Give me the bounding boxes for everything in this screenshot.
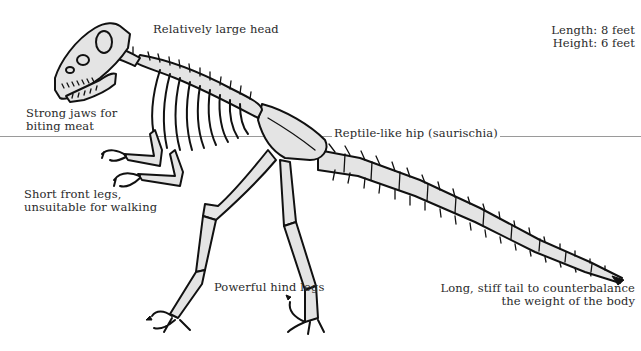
label-hip: Reptile-like hip (saurischia) bbox=[332, 127, 500, 140]
label-head: Relatively large head bbox=[153, 23, 279, 36]
label-hind-legs: Powerful hind legs bbox=[214, 281, 324, 294]
tail-vertebrae bbox=[318, 144, 624, 285]
dinosaur-skeleton-diagram: Relatively large head Length: 8 feet Hei… bbox=[0, 0, 641, 351]
label-front-legs: Short front legs, unsuitable for walking bbox=[24, 188, 157, 214]
label-front-legs-line2: unsuitable for walking bbox=[24, 201, 157, 214]
label-tail: Long, stiff tail to counterbalance the w… bbox=[440, 282, 635, 308]
dimensions-block: Length: 8 feet Height: 6 feet bbox=[551, 24, 635, 50]
front-legs bbox=[102, 130, 183, 187]
label-jaws-line2: biting meat bbox=[26, 120, 117, 133]
skull bbox=[55, 23, 130, 102]
hind-leg-right bbox=[280, 160, 324, 334]
label-jaws: Strong jaws for biting meat bbox=[26, 107, 117, 133]
height-stat: Height: 6 feet bbox=[551, 37, 635, 50]
label-tail-line2: the weight of the body bbox=[440, 295, 635, 308]
